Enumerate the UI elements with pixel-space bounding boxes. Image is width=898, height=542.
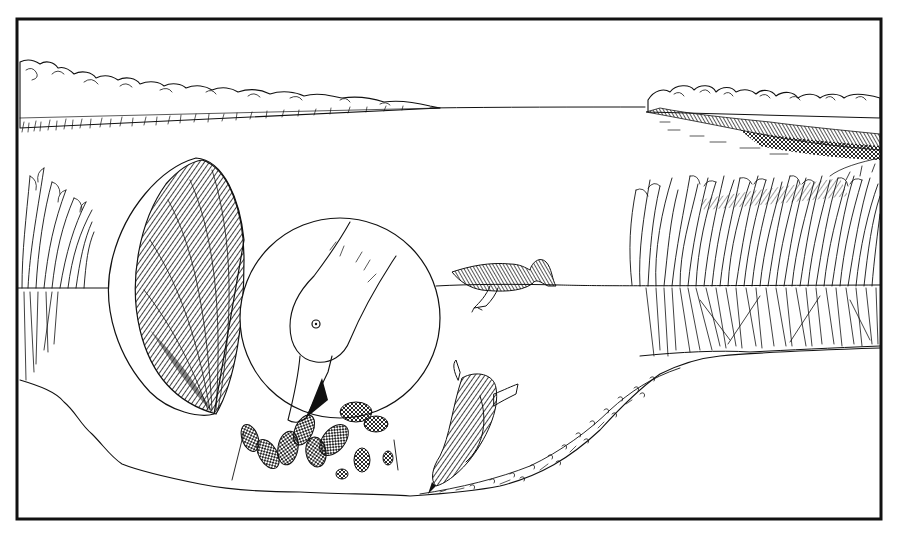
marsh-illustration	[0, 0, 898, 542]
